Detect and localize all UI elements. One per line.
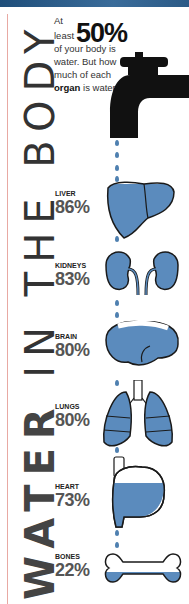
intro-bold-word: organ — [54, 82, 80, 93]
heart-icon — [108, 455, 168, 530]
organ-label-heart: HEART 73% — [55, 483, 90, 509]
water-drop-icon — [115, 165, 119, 171]
organ-percent: 86% — [55, 198, 90, 216]
organ-percent: 83% — [55, 270, 90, 288]
kidneys-icon — [102, 245, 182, 295]
margin-line — [7, 14, 8, 604]
water-drop-icon — [115, 152, 119, 158]
organ-percent: 80% — [55, 341, 90, 359]
organ-label-bones: BONES 22% — [55, 553, 90, 579]
water-drop-icon — [115, 447, 119, 453]
lungs-icon — [100, 380, 176, 450]
vertical-title: WATER IN THE BODY — [20, 20, 60, 600]
organ-percent: 73% — [55, 491, 90, 509]
organ-label-liver: LIVER 86% — [55, 190, 90, 216]
organ-percent: 22% — [55, 561, 90, 579]
organ-percent: 80% — [55, 411, 90, 429]
water-drop-icon — [115, 140, 119, 146]
bone-icon — [103, 550, 183, 586]
water-drop-icon — [115, 542, 119, 548]
brain-icon — [102, 318, 182, 368]
organ-label-brain: BRAIN 80% — [55, 333, 90, 359]
top-banner — [0, 0, 189, 7]
water-drop-icon — [115, 530, 119, 536]
organ-label-kidneys: KIDNEYS 83% — [55, 262, 90, 288]
faucet-icon — [100, 50, 189, 140]
water-drop-icon — [115, 300, 119, 306]
liver-icon — [104, 178, 176, 240]
intro-line1: At least — [54, 15, 74, 41]
organ-label-lungs: LUNGS 80% — [55, 403, 90, 429]
water-drop-icon — [115, 236, 119, 242]
